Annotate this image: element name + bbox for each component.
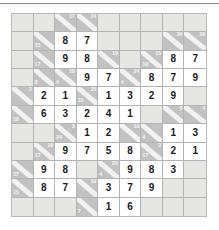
answer-cell-r6-c4[interactable]: 2	[77, 106, 99, 124]
clue-across-sum: 4	[121, 80, 124, 86]
answer-cell-r8-c5[interactable]: 5	[98, 143, 120, 161]
answer-digit: 8	[120, 143, 141, 160]
answer-digit: 5	[98, 143, 119, 160]
blank-cell-r6-c7	[141, 106, 163, 124]
answer-cell-r10-c3[interactable]: 7	[55, 179, 77, 197]
answer-cell-r8-c9[interactable]: 1	[184, 143, 206, 161]
answer-cell-r4-c5[interactable]: 7	[98, 69, 120, 87]
answer-digit: 8	[141, 161, 162, 178]
clue-across-sum: 4	[56, 80, 59, 86]
answer-digit: 2	[98, 124, 119, 141]
answer-cell-r10-c2[interactable]: 8	[34, 179, 56, 197]
blank-cell-r4-c1	[12, 69, 34, 87]
answer-cell-r3-c4[interactable]: 8	[77, 51, 99, 69]
answer-cell-r4-c7[interactable]: 8	[141, 69, 163, 87]
clue-down-sum: 16	[199, 32, 205, 38]
blank-cell-r11-c8	[163, 198, 185, 216]
clue-cell-r6-c8: 6	[163, 106, 185, 124]
answer-digit: 7	[163, 69, 184, 86]
clue-across-sum: 16	[13, 117, 19, 123]
answer-digit: 7	[184, 51, 206, 68]
answer-cell-r11-c6[interactable]: 6	[120, 198, 142, 216]
answer-digit: 1	[98, 87, 119, 104]
answer-cell-r10-c7[interactable]: 9	[141, 179, 163, 197]
answer-digit: 3	[55, 106, 76, 123]
clue-across-sum: 10	[78, 98, 84, 104]
blank-cell-r2-c5	[98, 32, 120, 50]
answer-cell-r9-c3[interactable]: 8	[55, 161, 77, 179]
kakuro-puzzle-board[interactable]: 1724158724161798191510878164972448793211…	[11, 13, 207, 217]
clue-across-sum: 4	[142, 135, 145, 141]
clue-across-sum: 10	[142, 62, 148, 68]
clue-down-sum: 19	[91, 179, 97, 185]
answer-cell-r3-c3[interactable]: 9	[55, 51, 77, 69]
blank-cell-r3-c6	[120, 51, 142, 69]
clue-cell-r6-c9: 4	[184, 106, 206, 124]
answer-cell-r7-c8[interactable]: 1	[163, 124, 185, 142]
answer-cell-r5-c5[interactable]: 1	[98, 87, 120, 105]
answer-cell-r9-c7[interactable]: 8	[141, 161, 163, 179]
answer-cell-r7-c9[interactable]: 3	[184, 124, 206, 142]
answer-cell-r4-c4[interactable]: 9	[77, 69, 99, 87]
answer-digit: 2	[141, 87, 162, 104]
answer-cell-r6-c3[interactable]: 3	[55, 106, 77, 124]
clue-across-sum: 4	[99, 172, 102, 178]
kakuro-grid[interactable]: 1724158724161798191510878164972448793211…	[12, 14, 206, 216]
blank-cell-r11-c9	[184, 198, 206, 216]
answer-cell-r2-c3[interactable]: 8	[55, 32, 77, 50]
answer-cell-r3-c8[interactable]: 8	[163, 51, 185, 69]
answer-cell-r3-c9[interactable]: 7	[184, 51, 206, 69]
clue-down-sum: 6	[180, 106, 183, 112]
answer-cell-r9-c6[interactable]: 9	[120, 161, 142, 179]
answer-cell-r5-c8[interactable]: 9	[163, 87, 185, 105]
answer-digit: 9	[120, 161, 141, 178]
clue-across-sum: 24	[56, 135, 62, 141]
blank-cell-r7-c2	[34, 124, 56, 142]
top-divider-rule	[0, 3, 219, 4]
answer-cell-r8-c3[interactable]: 9	[55, 143, 77, 161]
answer-cell-r6-c5[interactable]: 4	[98, 106, 120, 124]
answer-cell-r8-c4[interactable]: 7	[77, 143, 99, 161]
answer-cell-r4-c9[interactable]: 9	[184, 69, 206, 87]
clue-cell-r2-c8: 24	[163, 32, 185, 50]
answer-cell-r6-c6[interactable]: 1	[120, 106, 142, 124]
answer-digit: 1	[120, 106, 141, 123]
answer-digit: 7	[77, 143, 98, 160]
answer-cell-r8-c8[interactable]: 2	[163, 143, 185, 161]
answer-cell-r11-c5[interactable]: 1	[98, 198, 120, 216]
answer-digit: 3	[184, 124, 206, 141]
answer-cell-r7-c4[interactable]: 1	[77, 124, 99, 142]
answer-cell-r2-c4[interactable]: 7	[77, 32, 99, 50]
clue-cell-r5-c1: 3	[12, 87, 34, 105]
page-root: 1724158724161798191510878164972448793211…	[0, 0, 219, 230]
answer-cell-r9-c8[interactable]: 3	[163, 161, 185, 179]
blank-cell-r2-c1	[12, 32, 34, 50]
answer-digit: 7	[55, 179, 76, 196]
answer-digit: 3	[120, 87, 141, 104]
clue-down-sum: 16	[69, 69, 75, 75]
blank-cell-r5-c9	[184, 87, 206, 105]
answer-digit: 9	[55, 51, 76, 68]
clue-down-sum: 15	[155, 51, 161, 57]
clue-across-sum: 15	[35, 43, 41, 49]
answer-cell-r10-c5[interactable]: 3	[98, 179, 120, 197]
answer-cell-r9-c2[interactable]: 9	[34, 161, 56, 179]
blank-cell-r10-c8	[163, 179, 185, 197]
answer-cell-r6-c2[interactable]: 6	[34, 106, 56, 124]
answer-cell-r5-c7[interactable]: 2	[141, 87, 163, 105]
blank-cell-r1-c2	[34, 14, 56, 32]
answer-cell-r8-c6[interactable]: 8	[120, 143, 142, 161]
answer-cell-r10-c6[interactable]: 7	[120, 179, 142, 197]
answer-digit: 1	[184, 143, 206, 160]
answer-cell-r5-c6[interactable]: 3	[120, 87, 142, 105]
answer-cell-r5-c2[interactable]: 2	[34, 87, 56, 105]
clue-down-sum: 3	[29, 87, 32, 93]
answer-cell-r5-c3[interactable]: 1	[55, 87, 77, 105]
clue-down-sum: 3	[158, 143, 161, 149]
clue-cell-r3-c2: 17	[34, 51, 56, 69]
clue-across-sum: 7	[78, 209, 81, 215]
answer-cell-r4-c8[interactable]: 7	[163, 69, 185, 87]
answer-digit: 9	[184, 69, 206, 86]
answer-digit: 9	[34, 161, 55, 178]
answer-cell-r7-c5[interactable]: 2	[98, 124, 120, 142]
